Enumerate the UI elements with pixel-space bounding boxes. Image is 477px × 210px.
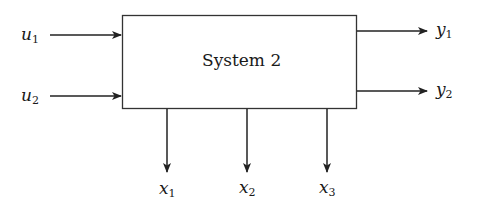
state-sub: 2: [249, 186, 256, 199]
input-label-u1: u1: [21, 26, 39, 45]
state-label-x2: x2: [239, 179, 256, 198]
output-var: y: [436, 79, 446, 99]
state-var: x: [239, 177, 249, 197]
state-var: x: [319, 177, 329, 197]
state-label-x3: x3: [319, 179, 336, 198]
output-sub: 1: [446, 28, 453, 41]
state-var: x: [159, 178, 169, 198]
input-sub: 1: [32, 33, 39, 46]
state-sub: 3: [329, 186, 336, 199]
state-sub: 1: [169, 187, 176, 200]
output-sub: 2: [446, 88, 453, 101]
input-var: u: [21, 85, 32, 105]
system-title: System 2: [202, 52, 281, 69]
output-var: y: [436, 19, 446, 39]
input-var: u: [21, 24, 32, 44]
input-sub: 2: [32, 94, 39, 107]
state-label-x1: x1: [159, 180, 176, 199]
input-label-u2: u2: [21, 87, 39, 106]
output-label-y2: y2: [436, 81, 453, 100]
output-label-y1: y1: [436, 21, 453, 40]
